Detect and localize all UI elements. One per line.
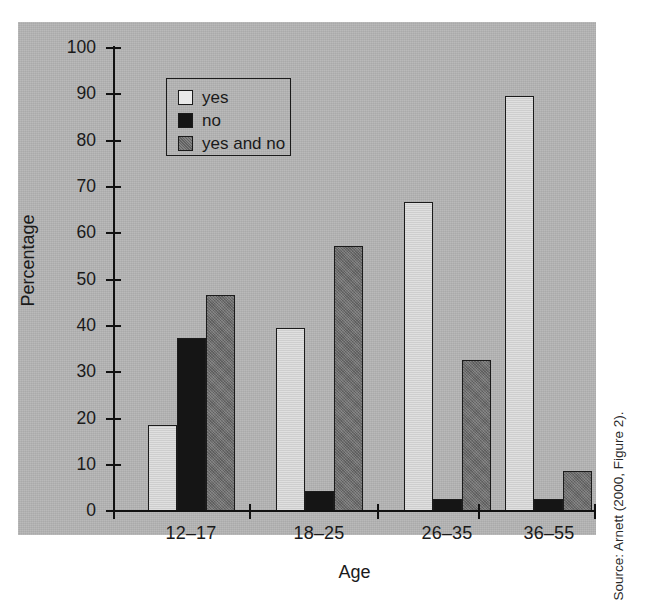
y-tick-label-90: 90 xyxy=(50,85,96,103)
y-tick-label-70: 70 xyxy=(50,178,96,196)
bar-36-55-yes-and-no xyxy=(563,471,592,511)
y-tick-label-30: 30 xyxy=(50,363,96,381)
legend-swatch-yes-and-no-icon xyxy=(178,136,193,151)
x-axis-line xyxy=(113,510,596,512)
legend-swatch-no-icon xyxy=(178,113,193,128)
y-tick-label-60: 60 xyxy=(50,224,96,242)
bar-12-17-yes-and-no xyxy=(206,295,235,511)
x-tick-1 xyxy=(249,504,251,519)
bar-12-17-yes xyxy=(148,425,177,511)
legend-label-yes-and-no: yes and no xyxy=(202,135,285,152)
y-tick-label-40: 40 xyxy=(50,317,96,335)
x-axis-title: Age xyxy=(113,562,596,583)
legend-item-no: no xyxy=(178,109,290,131)
x-tick-label-18-25: 18–25 xyxy=(259,524,379,542)
legend-item-yes: yes xyxy=(178,86,290,108)
y-tick-label-10: 10 xyxy=(50,456,96,474)
y-tick-label-20: 20 xyxy=(50,410,96,428)
x-tick-label-36-55: 36–55 xyxy=(489,524,609,542)
y-tick-label-100: 100 xyxy=(50,39,96,57)
bar-18-25-no xyxy=(305,491,334,511)
x-tick-3 xyxy=(478,504,480,519)
bar-18-25-yes-and-no xyxy=(334,246,363,511)
y-tick-label-80: 80 xyxy=(50,132,96,150)
x-tick-2 xyxy=(377,504,379,519)
bar-36-55-yes xyxy=(505,96,534,511)
x-tick-4 xyxy=(594,504,596,519)
chart-legend: yes no yes and no xyxy=(166,78,291,156)
bar-12-17-no xyxy=(177,338,206,511)
x-tick-label-12-17: 12–17 xyxy=(131,524,251,542)
figure-bar-chart: 100 90 80 70 60 50 40 30 20 10 0 12–17 1… xyxy=(0,0,651,613)
legend-label-no: no xyxy=(202,112,221,129)
x-tick-0 xyxy=(113,504,115,519)
bar-26-35-yes-and-no xyxy=(462,360,491,511)
source-note: Source: Arnett (2000, Figure 2). xyxy=(611,341,626,601)
legend-label-yes: yes xyxy=(202,89,228,106)
bar-26-35-yes xyxy=(404,202,433,511)
legend-swatch-yes-icon xyxy=(178,90,193,105)
y-tick-label-0: 0 xyxy=(50,502,96,520)
y-tick-label-50: 50 xyxy=(50,271,96,289)
bar-18-25-yes xyxy=(276,328,305,511)
y-axis-title: Percentage xyxy=(18,171,39,351)
legend-item-yes-and-no: yes and no xyxy=(178,132,290,154)
y-axis-line xyxy=(113,46,115,512)
